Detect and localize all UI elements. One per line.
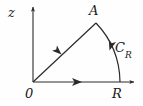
arc-label-subscript: R xyxy=(125,50,132,60)
axis-label-z: z xyxy=(8,6,15,19)
point-label-r: R xyxy=(112,87,122,100)
ray-path xyxy=(33,23,96,82)
point-label-origin: 0 xyxy=(25,87,33,100)
point-label-a: A xyxy=(89,4,98,17)
arc-label-cr: CR xyxy=(115,41,132,58)
contour-diagram: z A 0 R CR xyxy=(0,0,143,106)
arc-label-base: C xyxy=(115,40,125,55)
